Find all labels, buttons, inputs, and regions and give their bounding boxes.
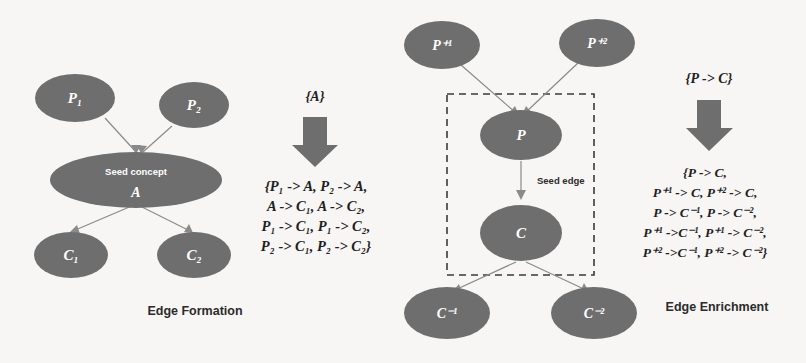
arrowhead-p-c bbox=[516, 190, 526, 200]
right-panel-caption: Edge Enrichment bbox=[666, 300, 770, 314]
left-output-formula: {P₁ -> A, P₂ -> A, A -> C₁, A -> C₂, P₁ … bbox=[261, 178, 371, 254]
left-input-set-label: {A} bbox=[305, 89, 324, 104]
node-c2-label: C₂ bbox=[186, 247, 201, 263]
down-arrow-icon-left bbox=[292, 117, 338, 167]
node-p-plus-2[interactable]: P⁺² bbox=[559, 19, 635, 67]
node-p1-label: P₁ bbox=[68, 90, 82, 106]
node-c-minus-2[interactable]: C⁻² bbox=[551, 287, 637, 339]
right-formula-line-3: P⁺¹ ->C⁻¹, P⁺¹ -> C⁻², bbox=[643, 225, 766, 240]
node-p2-label: P₂ bbox=[187, 97, 201, 113]
down-arrow-icon bbox=[686, 100, 733, 151]
left-formula-line-0: {P₁ -> A, P₂ -> A, bbox=[265, 178, 368, 194]
right-formula-line-2: P -> C⁻¹, P -> C⁻², bbox=[653, 205, 757, 220]
left-formula-line-2: P₁ -> C₁, P₁ -> C₂, bbox=[262, 218, 371, 234]
left-formula-line-3: P₂ -> C₁, P₂ -> C₂} bbox=[261, 238, 371, 254]
diagram-svg: P₁ P₂ Seed concept A C₁ C₂ bbox=[0, 0, 806, 363]
edge-a-to-c1 bbox=[73, 205, 134, 231]
node-c[interactable]: C bbox=[480, 205, 562, 261]
node-p[interactable]: P bbox=[480, 110, 562, 160]
edge-a-to-c2 bbox=[138, 205, 190, 231]
right-input-set-label: {P -> C} bbox=[686, 71, 733, 86]
edge-pplus2-to-p bbox=[525, 63, 578, 113]
node-c1-label: C₁ bbox=[63, 247, 78, 263]
edge-pplus1-to-p bbox=[461, 65, 516, 113]
node-a-sublabel: Seed concept bbox=[105, 166, 168, 177]
down-arrow-icon-right bbox=[686, 100, 733, 151]
right-formula-line-1: P⁺¹ -> C, P⁺² -> C, bbox=[653, 185, 758, 200]
node-a-label: A bbox=[130, 185, 140, 200]
node-p-plus-1-label: P⁺¹ bbox=[432, 38, 452, 53]
node-c1[interactable]: C₁ bbox=[34, 232, 108, 278]
node-c-minus-2-label: C⁻² bbox=[584, 306, 605, 321]
node-p-plus-1[interactable]: P⁺¹ bbox=[404, 21, 480, 69]
left-panel-group: P₁ P₂ Seed concept A C₁ C₂ bbox=[34, 74, 371, 318]
node-p-label: P bbox=[516, 127, 526, 143]
node-c-minus-1[interactable]: C⁻¹ bbox=[404, 287, 490, 339]
node-c-minus-1-label: C⁻¹ bbox=[437, 306, 458, 321]
node-c-label: C bbox=[516, 225, 527, 241]
edge-c-to-cminus1 bbox=[455, 262, 516, 290]
edge-p1-to-a bbox=[105, 118, 136, 152]
node-p-plus-2-label: P⁺² bbox=[587, 36, 608, 51]
node-p2[interactable]: P₂ bbox=[159, 82, 229, 128]
right-formula-line-4: P⁺² ->C⁻¹, P⁺² -> C⁻²} bbox=[643, 245, 768, 260]
right-formula-line-0: {P -> C, bbox=[683, 165, 727, 180]
down-arrow-icon bbox=[292, 117, 338, 167]
node-p1[interactable]: P₁ bbox=[35, 74, 115, 122]
right-panel-group: P⁺¹ P⁺² P Seed edge C C⁻¹ bbox=[404, 19, 769, 339]
node-c2[interactable]: C₂ bbox=[157, 232, 231, 278]
edge-c-to-cminus2 bbox=[526, 262, 586, 290]
left-panel-caption: Edge Formation bbox=[147, 304, 242, 318]
edge-p2-to-a bbox=[143, 126, 172, 152]
node-seed-concept-a[interactable]: Seed concept A bbox=[50, 152, 222, 208]
right-output-formula: {P -> C, P⁺¹ -> C, P⁺² -> C, P -> C⁻¹, P… bbox=[643, 165, 768, 260]
left-formula-line-1: A -> C₁, A -> C₂, bbox=[266, 198, 365, 214]
figure-canvas: P₁ P₂ Seed concept A C₁ C₂ bbox=[0, 0, 806, 363]
seed-edge-label: Seed edge bbox=[537, 175, 585, 186]
